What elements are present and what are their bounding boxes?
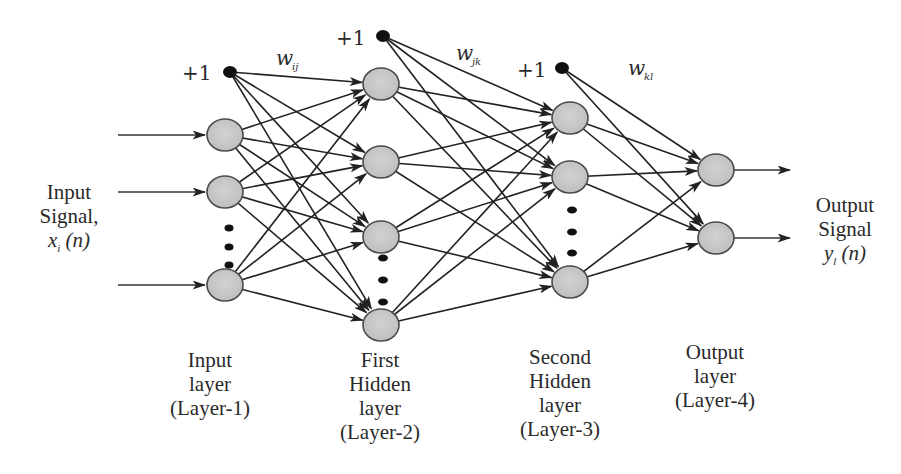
- edge: [381, 162, 554, 272]
- layer-label-line: Output: [655, 340, 775, 364]
- output-layer-label: Output layer (Layer-4): [655, 340, 775, 412]
- first-hidden-layer-label: First Hidden layer (Layer-2): [315, 348, 445, 444]
- layer-label-line: layer: [315, 396, 445, 420]
- layer-label-line: (Layer-1): [150, 396, 270, 420]
- neuron-node: [698, 222, 734, 254]
- layer-label-line: (Layer-4): [655, 388, 775, 412]
- edge: [225, 99, 369, 285]
- edge: [381, 183, 552, 237]
- bias-node: [555, 62, 569, 74]
- input-signal-math: xi (n): [14, 228, 124, 260]
- output-signal-math: yl (n): [790, 241, 900, 273]
- neuron-node: [207, 176, 243, 208]
- neuron-node: [552, 102, 588, 134]
- neuron-node: [207, 269, 243, 301]
- neuron-node: [552, 161, 588, 193]
- second-hidden-layer-label: Second Hidden layer (Layer-3): [500, 345, 620, 441]
- edge: [225, 285, 363, 320]
- edge: [230, 72, 371, 309]
- edge: [225, 192, 367, 313]
- bias-node: [376, 30, 390, 42]
- svg-text:kl: kl: [644, 71, 653, 82]
- output-signal-line1: Output: [790, 193, 900, 217]
- edge: [562, 68, 703, 224]
- edge: [570, 118, 698, 164]
- edge: [570, 244, 698, 283]
- output-signal-line2: Signal: [790, 217, 900, 241]
- neuron-node: [207, 119, 243, 151]
- neuron-node: [363, 68, 399, 100]
- svg-text:w: w: [456, 41, 473, 65]
- neuron-node: [363, 309, 399, 341]
- bias-label-hidden1: +1: [336, 26, 365, 50]
- bias-node: [223, 66, 237, 78]
- weight-label-kl: w kl: [628, 56, 653, 82]
- svg-text:ij: ij: [292, 61, 298, 72]
- edge: [225, 135, 369, 310]
- svg-text:jk: jk: [470, 56, 481, 67]
- layer-label-line: layer: [150, 372, 270, 396]
- neuron-node: [363, 146, 399, 178]
- input-signal-line1: Input: [14, 180, 124, 204]
- weight-label-ij: w ij: [276, 46, 298, 72]
- edge: [570, 171, 697, 177]
- bias-label-input: +1: [182, 61, 211, 85]
- layer-label-line: layer: [655, 364, 775, 388]
- bias-label-hidden2: +1: [517, 58, 546, 82]
- layer-label-line: Hidden: [315, 372, 445, 396]
- input-layer-label: Input layer (Layer-1): [150, 348, 270, 420]
- edge: [570, 177, 699, 231]
- neuron-node: [552, 266, 588, 298]
- output-arrows: [734, 170, 790, 238]
- weight-label-jk: w jk: [456, 41, 481, 67]
- neuron-node: [698, 154, 734, 186]
- edge: [230, 72, 365, 152]
- edge: [230, 72, 362, 83]
- layer-label-line: Second: [500, 345, 620, 369]
- layer-label-line: Hidden: [500, 369, 620, 393]
- edge: [225, 90, 363, 135]
- input-arrows: [118, 135, 205, 285]
- layer-label-line: (Layer-3): [500, 417, 620, 441]
- layer-label-line: First: [315, 348, 445, 372]
- edge: [570, 182, 701, 282]
- layer-label-line: layer: [500, 393, 620, 417]
- input-signal-label: Input Signal, xi (n): [14, 180, 124, 260]
- layer-label-line: Input: [150, 348, 270, 372]
- svg-text:w: w: [276, 46, 293, 70]
- edge: [381, 237, 552, 278]
- neuron-node: [363, 221, 399, 253]
- svg-text:w: w: [628, 56, 645, 80]
- layer-label-line: (Layer-2): [315, 420, 445, 444]
- input-signal-line2: Signal,: [14, 204, 124, 228]
- output-signal-label: Output Signal yl (n): [790, 193, 900, 273]
- edge: [225, 174, 366, 285]
